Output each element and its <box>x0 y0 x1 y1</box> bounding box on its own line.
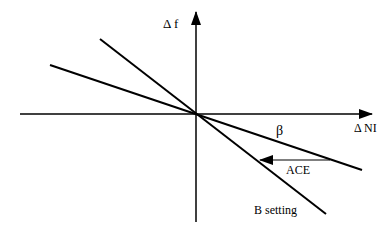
x-axis-label: Δ NI <box>354 121 377 135</box>
frequency-bias-diagram: Δ f Δ NI β ACE B setting <box>0 0 391 234</box>
b-setting-label: B setting <box>254 203 297 217</box>
beta-line <box>50 65 362 170</box>
y-axis-label: Δ f <box>163 16 179 31</box>
beta-label: β <box>276 123 283 138</box>
b-setting-line <box>100 39 326 214</box>
ace-label: ACE <box>286 163 310 177</box>
